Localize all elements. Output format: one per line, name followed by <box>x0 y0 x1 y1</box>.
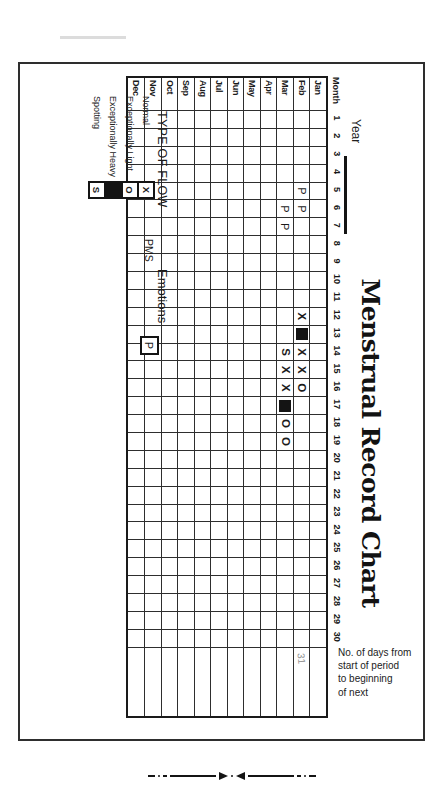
grid-cell <box>277 111 294 129</box>
grid-cell <box>260 308 277 326</box>
grid-cell <box>145 361 162 379</box>
grid-cell <box>227 612 244 630</box>
grid-cell <box>310 433 327 451</box>
grid-cell <box>178 469 195 487</box>
grid-cell <box>211 361 228 379</box>
grid-cell: P <box>277 218 294 236</box>
grid-cell <box>227 505 244 523</box>
grid-cell <box>194 183 211 201</box>
grid-cell <box>244 415 261 433</box>
year-label: Year <box>349 119 363 143</box>
grid-cell <box>161 469 178 487</box>
grid-cell: P <box>293 183 310 201</box>
grid-cell <box>128 433 145 451</box>
grid-cell <box>293 254 310 272</box>
grid-cell <box>244 451 261 469</box>
grid-cell <box>244 165 261 183</box>
grid-cell <box>128 379 145 397</box>
grid-cell <box>128 522 145 540</box>
flow-mark: O <box>280 437 292 446</box>
pms-mark: P <box>280 205 291 212</box>
grid-cell <box>244 326 261 344</box>
grid-cell <box>227 183 244 201</box>
grid-cell <box>310 129 327 147</box>
caption-line: to beginning <box>338 672 411 685</box>
grid-cell <box>194 129 211 147</box>
grid-cell <box>161 576 178 594</box>
grid-cell <box>178 379 195 397</box>
grid-cell <box>244 540 261 558</box>
grid-cell <box>244 308 261 326</box>
legend-entry: Exceptionally LightO <box>122 96 139 199</box>
grid-cell <box>194 630 211 648</box>
grid-cell <box>128 487 145 505</box>
day-number: 20 <box>332 449 342 467</box>
grid-cell <box>211 236 228 254</box>
grid-cell <box>310 522 327 540</box>
grid-cell <box>310 111 327 129</box>
day-number: 23 <box>332 503 342 521</box>
month-label: Apr <box>260 78 277 111</box>
days-count-cell <box>161 648 178 716</box>
grid-cell <box>310 594 327 612</box>
grid-cell <box>227 272 244 290</box>
days-count-note: 31 <box>296 652 308 664</box>
day-number: 3 <box>332 145 342 163</box>
grid-cell <box>161 505 178 523</box>
grid-cell <box>161 612 178 630</box>
grid-cell <box>178 415 195 433</box>
grid-cell <box>277 290 294 308</box>
grid-cell <box>227 540 244 558</box>
grid-cell <box>260 183 277 201</box>
grid-cell <box>277 254 294 272</box>
legend-entry: SpottingS <box>89 96 106 199</box>
chart-title: Menstrual Record Chart <box>356 263 385 623</box>
grid-cell <box>227 218 244 236</box>
grid-cell <box>310 379 327 397</box>
day-number: 11 <box>332 288 342 306</box>
grid-cell <box>178 487 195 505</box>
grid-cell <box>277 612 294 630</box>
grid-cell <box>194 147 211 165</box>
grid-cell <box>310 326 327 344</box>
grid-cell <box>128 612 145 630</box>
grid-cell <box>211 344 228 362</box>
grid-cell <box>194 326 211 344</box>
grid-cell <box>244 505 261 523</box>
grid-cell <box>260 558 277 576</box>
grid-cell <box>178 361 195 379</box>
grid-cell <box>310 612 327 630</box>
grid-cell <box>194 451 211 469</box>
grid-cell <box>260 576 277 594</box>
grid-cell <box>244 218 261 236</box>
grid-cell <box>260 361 277 379</box>
grid-cell <box>211 379 228 397</box>
day-number: 6 <box>332 198 342 216</box>
legend-entry: Exceptionally Heavy <box>105 96 122 199</box>
grid-cell <box>310 236 327 254</box>
grid-cell <box>260 505 277 523</box>
grid-cell <box>194 505 211 523</box>
grid-cell <box>128 308 145 326</box>
month-label: Jun <box>227 78 244 111</box>
grid-cell <box>260 236 277 254</box>
grid-cell <box>178 272 195 290</box>
grid-cell <box>194 522 211 540</box>
grid-cell <box>244 630 261 648</box>
grid-cell <box>128 540 145 558</box>
grid-cell <box>178 612 195 630</box>
grid-cell <box>277 630 294 648</box>
day-number: 8 <box>332 234 342 252</box>
grid-cell <box>277 165 294 183</box>
flow-mark: S <box>280 348 292 356</box>
grid-cell <box>211 540 228 558</box>
day-number: 12 <box>332 306 342 324</box>
grid-cell <box>277 540 294 558</box>
grid-cell <box>145 505 162 523</box>
grid-cell <box>260 594 277 612</box>
grid-cell <box>161 594 178 612</box>
grid-cell <box>211 218 228 236</box>
grid-cell <box>128 218 145 236</box>
legend-symbol-box: X <box>138 181 156 199</box>
grid-cell <box>244 594 261 612</box>
